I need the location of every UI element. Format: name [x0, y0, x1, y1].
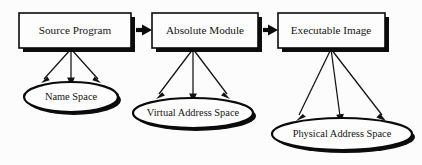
fan-arrow-left-line [44, 49, 71, 79]
fan-arrow-left-head [156, 92, 165, 99]
connector-source-to-absolute [136, 25, 152, 36]
fan-arrow-left-line [299, 49, 331, 115]
stage-executable-image: Physical Address Space Executable Image [272, 13, 415, 153]
fan-arrows-executable-image [296, 49, 386, 123]
virtual-address-space-label: Virtual Address Space [147, 107, 240, 118]
connector-2-head [268, 25, 278, 36]
stage-absolute-module: Virtual Address Space Absolute Module [133, 13, 262, 131]
fan-arrows-source-program [41, 49, 101, 86]
address-space-binding-diagram: Name Space Source Program Virtual [0, 0, 422, 165]
stage-source-program: Name Space Source Program [19, 13, 135, 115]
fan-arrow-right-line [193, 49, 227, 94]
fan-arrow-right-head [221, 92, 230, 99]
fan-arrows-absolute-module [156, 49, 230, 102]
connector-absolute-to-executable [263, 25, 278, 36]
fan-arrow-left-line [159, 49, 193, 94]
name-space-label: Name Space [45, 91, 98, 102]
connector-1-head [142, 25, 152, 36]
absolute-module-label: Absolute Module [166, 24, 244, 36]
executable-image-label: Executable Image [291, 24, 371, 36]
fan-arrow-right-line [71, 49, 98, 79]
source-program-label: Source Program [39, 24, 112, 36]
diagram-canvas: Name Space Source Program Virtual [0, 0, 422, 165]
physical-address-space-label: Physical Address Space [293, 128, 392, 139]
